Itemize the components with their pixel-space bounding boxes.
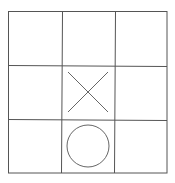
cell-0-0[interactable] [8, 11, 62, 65]
cell-1-2[interactable] [115, 65, 167, 119]
cell-1-0[interactable] [8, 65, 62, 119]
cell-2-0[interactable] [8, 119, 62, 173]
cell-0-1[interactable] [62, 11, 115, 65]
cell-0-2[interactable] [115, 11, 167, 65]
tic-tac-toe-board [0, 0, 175, 183]
cell-2-2[interactable] [115, 119, 167, 173]
cell-2-1[interactable] [62, 119, 115, 173]
